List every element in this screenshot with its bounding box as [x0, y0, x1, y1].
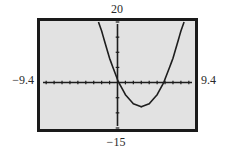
ymin-label: −15 [104, 135, 128, 149]
calculator-graph-screen [37, 18, 198, 132]
ymax-label: 20 [106, 2, 128, 16]
graph-plot [37, 18, 198, 132]
xmax-label: 9.4 [201, 73, 216, 87]
xmin-label: −9.4 [2, 73, 34, 87]
